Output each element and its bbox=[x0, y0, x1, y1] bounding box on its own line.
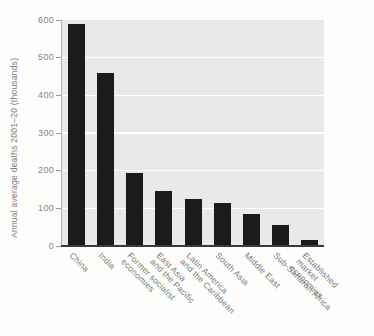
y-tick-label-0: 0 bbox=[0, 241, 54, 252]
bar-china bbox=[68, 24, 85, 246]
bar-former-socialist-economies bbox=[126, 173, 143, 246]
y-tick-label-100: 100 bbox=[0, 203, 54, 214]
bar-chart-figure: Annual average deaths 2001–20 (thousands… bbox=[0, 0, 374, 336]
y-axis: 0100200300400500600 bbox=[0, 20, 62, 247]
bar-south-asia bbox=[214, 203, 231, 246]
bar-east-asia-and-the-pacific bbox=[155, 191, 172, 246]
y-tick-label-600: 600 bbox=[0, 15, 54, 26]
bar-india bbox=[97, 73, 114, 246]
y-tick-label-200: 200 bbox=[0, 165, 54, 176]
bar-latin-america-and-the-caribbean bbox=[185, 199, 202, 246]
y-axis-line bbox=[61, 20, 63, 247]
y-tick-label-300: 300 bbox=[0, 128, 54, 139]
bar-sub-saharan-africa bbox=[272, 225, 289, 246]
plot-area bbox=[62, 20, 324, 246]
x-tick-label: China bbox=[68, 251, 91, 274]
y-tick-label-500: 500 bbox=[0, 52, 54, 63]
bar-middle-east bbox=[243, 214, 260, 246]
gridline-500 bbox=[62, 57, 324, 59]
x-tick-label: India bbox=[97, 251, 117, 271]
x-axis-line bbox=[61, 245, 324, 247]
y-tick-label-400: 400 bbox=[0, 90, 54, 101]
x-axis-labels: ChinaIndiaFormer socialist economiesEast… bbox=[62, 251, 374, 336]
